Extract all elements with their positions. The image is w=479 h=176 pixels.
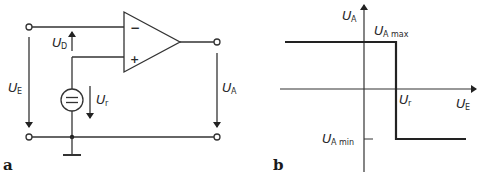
voltage-source-icon	[61, 89, 83, 111]
output-ground-terminal	[214, 134, 220, 140]
panel-a-label: a	[3, 156, 13, 174]
label-u-d: U D	[52, 35, 67, 51]
characteristic-curve	[285, 42, 466, 139]
label-u-a: U A	[222, 80, 237, 96]
label-x-axis: U E	[456, 96, 470, 112]
opamp-minus-sign: −	[130, 21, 140, 35]
svg-text:A: A	[351, 15, 357, 24]
output-terminal	[214, 39, 220, 45]
svg-text:r: r	[105, 99, 109, 108]
svg-text:D: D	[61, 42, 67, 51]
figure: − + U E U D U r U A a U A U A max U r U	[0, 0, 479, 176]
circuit-diagram	[26, 12, 220, 155]
label-u-amax: U A max	[374, 23, 409, 39]
label-u-e: U E	[8, 80, 22, 96]
label-u-r: U r	[96, 92, 109, 108]
svg-text:r: r	[408, 99, 412, 108]
svg-text:A max: A max	[383, 30, 409, 39]
svg-text:E: E	[465, 103, 470, 112]
svg-text:A: A	[231, 87, 237, 96]
input-terminal	[26, 24, 32, 30]
label-u-amin: U A min	[322, 131, 354, 147]
label-u-r-step: U r	[399, 92, 412, 108]
label-y-axis: U A	[342, 8, 357, 24]
opamp-plus-sign: +	[130, 53, 139, 66]
svg-text:A min: A min	[331, 138, 354, 147]
svg-text:E: E	[17, 87, 22, 96]
input-ground-terminal	[26, 134, 32, 140]
panel-b-label: b	[273, 156, 284, 174]
